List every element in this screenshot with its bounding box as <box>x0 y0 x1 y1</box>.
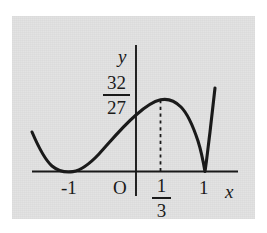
thirty-two-fraction-bar <box>103 94 130 96</box>
y-axis-label: y <box>118 47 126 66</box>
x-axis-label: x <box>225 182 233 201</box>
one-third-fraction-bar <box>152 197 171 199</box>
one-third-numerator: 1 <box>152 176 171 196</box>
origin-label: O <box>113 178 127 197</box>
twentyseven-denominator: 27 <box>103 97 130 117</box>
y-tick-label-thirty-two-twentysevenths: 32 27 <box>103 73 130 117</box>
x-tick-label-neg-one: -1 <box>61 178 77 197</box>
one-third-denominator: 3 <box>152 200 171 220</box>
x-tick-label-one: 1 <box>199 178 209 197</box>
x-tick-label-one-third: 1 3 <box>152 176 171 220</box>
thirty-two-numerator: 32 <box>103 73 130 93</box>
figure-page: y x O -1 1 1 3 32 27 <box>0 0 267 233</box>
